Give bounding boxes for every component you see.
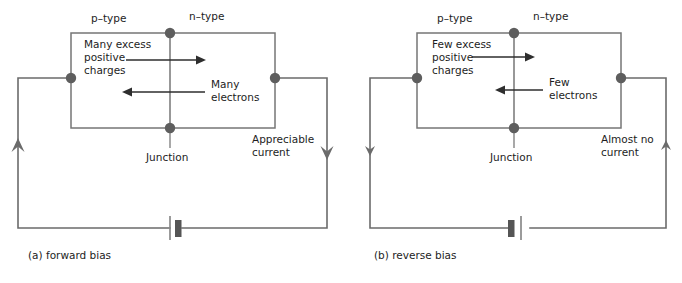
hole-label-line3: charges — [84, 64, 126, 76]
battery-short-plate — [175, 220, 182, 237]
node-top-junction — [165, 28, 175, 38]
electron-flow-arrow-left — [495, 86, 543, 95]
electron-label-line1: Few — [549, 76, 570, 88]
hole-flow-arrow-right — [472, 53, 535, 62]
current-label-line2: current — [252, 146, 290, 158]
p-type-label: p–type — [91, 12, 126, 24]
electron-label-line2: electrons — [211, 91, 259, 103]
current-label-line1: Almost no — [601, 133, 654, 145]
figure-root: p–type n–type Many excess positive charg… — [0, 0, 682, 283]
node-bottom-junction — [165, 123, 175, 133]
n-type-label: n–type — [533, 10, 568, 22]
node-n-terminal — [616, 73, 626, 83]
node-p-terminal — [66, 73, 76, 83]
battery-short-plate — [508, 220, 515, 237]
n-type-label: n–type — [189, 10, 224, 22]
junction-label: Junction — [145, 151, 188, 163]
electron-label-line1: Many — [211, 78, 239, 90]
electron-flow-arrow-left — [122, 88, 205, 97]
hole-label-line2: positive — [432, 51, 473, 63]
panel-reverse-bias: p–type n–type Few excess positive charge… — [365, 10, 671, 261]
hole-flow-arrow-right — [126, 56, 206, 65]
hole-label-line1: Many excess — [84, 38, 151, 50]
current-label-line2: current — [601, 146, 639, 158]
hole-label-line2: positive — [84, 51, 125, 63]
p-type-label: p–type — [437, 12, 472, 24]
hole-label-line3: charges — [432, 64, 474, 76]
node-p-terminal — [412, 73, 422, 83]
node-top-junction — [509, 28, 519, 38]
panel-forward-bias: p–type n–type Many excess positive charg… — [12, 10, 334, 261]
caption-forward-bias: (a) forward bias — [28, 249, 111, 261]
junction-label: Junction — [489, 151, 532, 163]
node-bottom-junction — [509, 123, 519, 133]
hole-label-line1: Few excess — [432, 38, 491, 50]
caption-reverse-bias: (b) reverse bias — [374, 249, 457, 261]
node-n-terminal — [270, 73, 280, 83]
electron-label-line2: electrons — [549, 89, 597, 101]
pn-junction-figure: p–type n–type Many excess positive charg… — [0, 0, 682, 283]
current-label-line1: Appreciable — [252, 133, 314, 145]
